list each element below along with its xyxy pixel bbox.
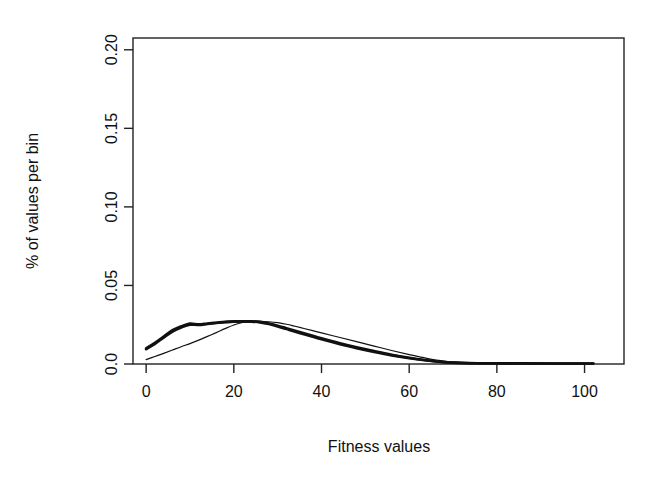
fitness-values-distribution-chart: 020406080100 0.00.050.100.150.20 Fitness… bbox=[0, 0, 658, 485]
x-tick-label: 100 bbox=[571, 383, 598, 400]
chart-figure: 020406080100 0.00.050.100.150.20 Fitness… bbox=[0, 0, 658, 485]
x-tick-label: 40 bbox=[313, 383, 331, 400]
x-axis-label: Fitness values bbox=[328, 438, 430, 455]
y-tick-label: 0.15 bbox=[103, 113, 120, 144]
y-tick-label: 0.0 bbox=[103, 353, 120, 375]
y-axis-label: % of values per bin bbox=[24, 133, 41, 269]
chart-background bbox=[0, 0, 658, 485]
y-tick-label: 0.10 bbox=[103, 191, 120, 222]
x-tick-label: 60 bbox=[400, 383, 418, 400]
x-tick-label: 80 bbox=[488, 383, 506, 400]
y-tick-label: 0.20 bbox=[103, 34, 120, 65]
x-tick-label: 20 bbox=[225, 383, 243, 400]
y-tick-label: 0.05 bbox=[103, 270, 120, 301]
x-tick-label: 0 bbox=[142, 383, 151, 400]
